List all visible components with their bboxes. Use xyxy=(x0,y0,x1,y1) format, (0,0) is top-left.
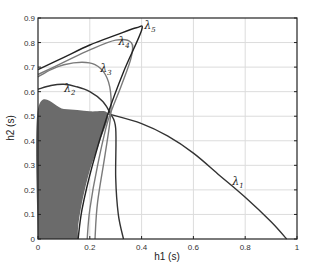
y-tick-label: 0.9 xyxy=(24,14,36,23)
curve-label-lambda-3: λ3 xyxy=(99,62,112,77)
y-tick-label: 0.2 xyxy=(24,186,36,195)
y-tick-label: 0.7 xyxy=(24,63,36,72)
y-tick-label: 0.3 xyxy=(24,161,36,170)
y-tick-label: 0 xyxy=(31,235,36,244)
curve-label-lambda-2: λ2 xyxy=(63,82,76,97)
x-tick-label: 0.8 xyxy=(240,243,252,252)
x-axis-label: h1 (s) xyxy=(154,251,180,262)
y-tick-label: 0.5 xyxy=(24,112,36,121)
curve-label-lambda-5: λ5 xyxy=(143,19,156,34)
curve-label-lambda-1: λ1 xyxy=(231,175,243,190)
y-tick-label: 0.4 xyxy=(24,137,36,146)
x-tick-label: 0.6 xyxy=(188,243,200,252)
y-axis-label: h2 (s) xyxy=(5,115,16,141)
y-tick-label: 0.1 xyxy=(24,210,36,219)
y-tick-label: 0.6 xyxy=(24,88,36,97)
y-tick-label: 0.8 xyxy=(24,39,36,48)
x-tick-label: 0 xyxy=(36,243,41,252)
curve-lambda-1 xyxy=(108,114,287,239)
curve-label-lambda-4: λ4 xyxy=(117,35,129,50)
x-tick-label: 1 xyxy=(295,243,300,252)
x-tick-label: 0.4 xyxy=(136,243,148,252)
x-tick-label: 0.2 xyxy=(84,243,96,252)
chart: 00.20.40.60.81 00.10.20.30.40.50.60.70.8… xyxy=(0,0,310,271)
